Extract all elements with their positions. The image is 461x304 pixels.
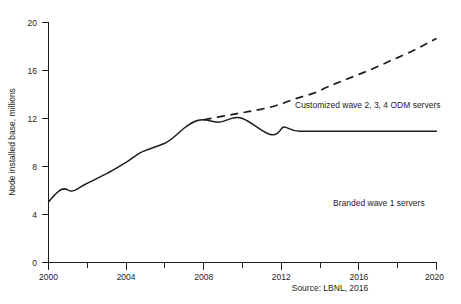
y-tick-label-16: 16 (28, 66, 38, 76)
solid-series-label: Branded wave 1 servers (333, 198, 425, 208)
y-tick-label-12: 12 (28, 114, 38, 124)
x-axis-tick-labels: 2000 2004 2008 2012 2016 2020 (39, 272, 444, 282)
chart-figure: 20 16 12 8 4 0 2000 2004 20 (0, 0, 461, 304)
y-axis-tick-labels: 20 16 12 8 4 0 (28, 18, 38, 268)
x-tick-label-2000: 2000 (39, 272, 58, 282)
x-tick-label-2012: 2012 (272, 272, 291, 282)
x-axis-minor-ticks (87, 263, 397, 269)
series-branded-wave-1-line (49, 118, 437, 202)
y-tick-label-0: 0 (32, 258, 37, 268)
line-chart-canvas: 20 16 12 8 4 0 2000 2004 20 (0, 0, 461, 304)
x-tick-label-2020: 2020 (425, 272, 444, 282)
x-tick-label-2008: 2008 (194, 272, 213, 282)
y-axis-ticks (42, 23, 49, 263)
y-axis-title: Node installed base, millions (7, 88, 17, 196)
y-tick-label-4: 4 (32, 210, 37, 220)
x-tick-label-2016: 2016 (349, 272, 368, 282)
source-note: Source: LBNL, 2016 (292, 283, 369, 293)
y-tick-label-20: 20 (28, 18, 38, 28)
x-tick-label-2004: 2004 (117, 272, 136, 282)
dashed-series-label: Customized wave 2, 3, 4 ODM servers (295, 100, 441, 110)
y-tick-label-8: 8 (32, 162, 37, 172)
